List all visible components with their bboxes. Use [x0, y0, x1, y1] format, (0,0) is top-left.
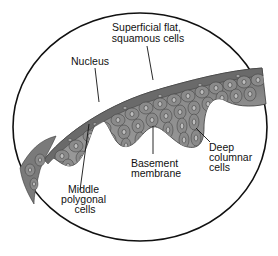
label-superficial: Superficial flat, squamous cells: [112, 21, 184, 44]
label-nucleus: Nucleus: [71, 55, 109, 67]
label-basement: Basement membrane: [131, 157, 181, 179]
epithelium-diagram: Superficial flat, squamous cells Nucleus…: [0, 0, 278, 256]
